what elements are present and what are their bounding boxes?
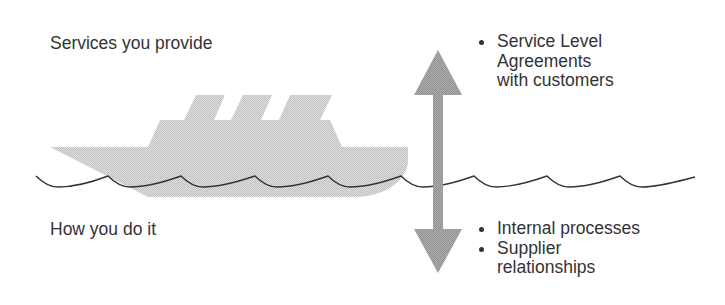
bullet-line: relationships <box>497 258 640 278</box>
ship-icon <box>50 95 408 197</box>
bullet-dot-icon <box>479 40 484 45</box>
bullet-supplier-relationships: Supplier relationships <box>477 239 640 278</box>
arrow-down-head <box>414 229 462 273</box>
bullet-line: Service Level <box>497 32 614 52</box>
ship-superstructure <box>148 120 342 147</box>
top-label: Services you provide <box>50 33 212 53</box>
bullet-dot-icon <box>479 247 484 252</box>
ship-hull <box>50 147 408 197</box>
bullet-line: Agreements <box>497 52 614 72</box>
bullet-line: with customers <box>497 71 614 91</box>
bottom-label: How you do it <box>50 219 156 239</box>
bullet-dot-icon <box>479 227 484 232</box>
ship-funnel-3 <box>279 95 332 120</box>
bottom-bullet-list: Internal processes Supplier relationship… <box>477 219 640 278</box>
bullet-internal-processes: Internal processes <box>477 219 640 239</box>
bullet-line: Internal processes <box>497 219 640 239</box>
double-headed-vertical-arrow <box>414 50 462 273</box>
arrow-up-head <box>414 50 462 95</box>
bullet-service-level-agreements: Service Level Agreements with customers <box>477 32 614 91</box>
ship-funnel-1 <box>184 95 225 120</box>
iceberg-ship-diagram: Services you provide How you do it Servi… <box>0 0 725 305</box>
bullet-line: Supplier <box>497 239 640 259</box>
arrow-shaft <box>433 94 443 230</box>
ship-funnel-2 <box>231 95 272 120</box>
top-bullet-list: Service Level Agreements with customers <box>477 32 614 91</box>
